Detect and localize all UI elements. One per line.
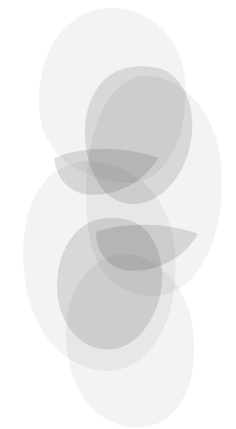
artboard xyxy=(0,0,236,429)
blob-composition xyxy=(0,0,236,429)
